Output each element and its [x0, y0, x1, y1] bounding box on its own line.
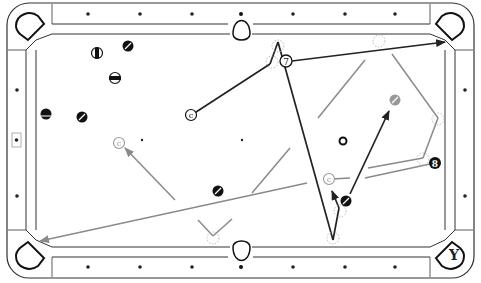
- ball-ring: [340, 138, 347, 145]
- headstring-marker: [12, 133, 21, 147]
- ball-stripe-3: [41, 109, 52, 120]
- cue-ball-ghost-left: c: [114, 138, 125, 149]
- pocket-top-side: [233, 12, 250, 40]
- ball-7: 7: [280, 55, 292, 67]
- pocket-bottom-right: Y: [430, 230, 464, 269]
- cue-ball-ghost-right: c: [324, 174, 335, 185]
- table-canvas: Y: [0, 0, 481, 283]
- ball-solid-4: [341, 196, 352, 207]
- ball-solid-2: [77, 112, 88, 123]
- pool-table-diagram: Y: [0, 0, 481, 283]
- svg-text:7: 7: [283, 57, 289, 67]
- ball-stripe-2: [110, 73, 121, 84]
- secondary-paths: [40, 54, 438, 241]
- cue-ball-main: c: [186, 110, 197, 121]
- pocket-bottom-side: [233, 241, 250, 269]
- pocket-bottom-left: [16, 230, 52, 269]
- ball-gray-target: [390, 95, 401, 106]
- table-frame: [7, 3, 474, 278]
- rail-diamonds: [15, 12, 467, 269]
- svg-text:8: 8: [432, 159, 438, 169]
- ball-solid-1: [123, 41, 134, 52]
- ball-solid-3: [213, 186, 224, 197]
- primary-paths: [193, 42, 445, 240]
- ball-8: 8: [429, 157, 441, 169]
- svg-text:c: c: [189, 111, 194, 120]
- pocket-target-label: Y: [448, 247, 460, 263]
- ball-stripe-1: [92, 48, 103, 59]
- svg-text:c: c: [327, 175, 332, 184]
- svg-text:c: c: [117, 139, 122, 148]
- pocket-top-right: [430, 13, 464, 50]
- pocket-top-left: [16, 13, 52, 50]
